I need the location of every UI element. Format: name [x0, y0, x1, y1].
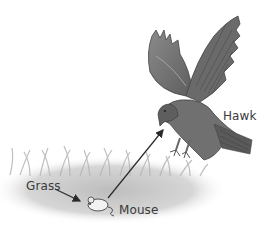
hawk-label: Hawk: [223, 109, 257, 123]
mouse-label: Mouse: [119, 203, 158, 217]
grass-label: Grass: [26, 179, 61, 193]
food-chain-diagram: Hawk Grass Mouse: [0, 0, 272, 234]
hawk-illustration: [148, 16, 252, 160]
